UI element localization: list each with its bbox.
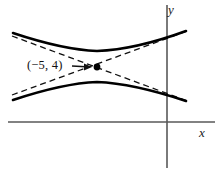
hyperbola-lower-branch [13,82,186,101]
hyperbola-upper-branch [13,31,186,51]
y-axis-label: y [168,3,174,16]
center-point-marker [94,64,101,71]
x-axis-label: x [199,126,205,139]
hyperbola-figure: y x (−5, 4) [0,0,220,171]
hyperbola-canvas [0,0,220,171]
center-point-label: (−5, 4) [27,59,63,72]
